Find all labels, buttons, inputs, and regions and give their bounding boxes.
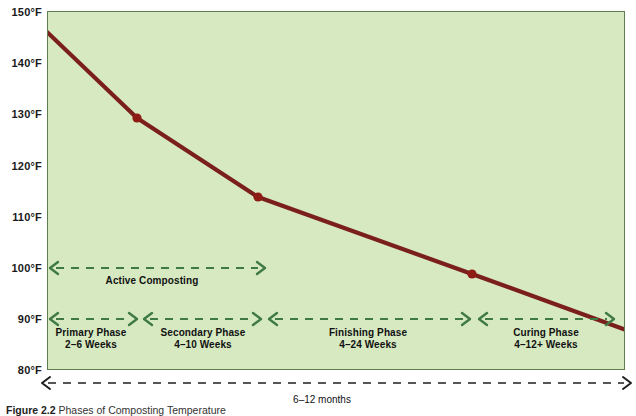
bracket-active-composting (50, 262, 265, 274)
bracket-primary-phase (50, 313, 137, 325)
label-primary-phase: Primary Phase (41, 327, 141, 339)
label-curing-phase-duration: 4–12+ Weeks (486, 339, 606, 351)
label-secondary-phase-duration: 4–10 Weeks (150, 339, 256, 351)
bracket-finishing-phase (269, 313, 470, 325)
figure-caption: Figure 2.2 Phases of Composting Temperat… (6, 404, 226, 416)
data-point-115f (253, 192, 262, 201)
label-active-composting: Active Composting (52, 275, 252, 287)
bracket-curing-phase (479, 313, 614, 325)
figure-caption-text: Phases of Composting Temperature (59, 404, 226, 416)
label-curing-phase: Curing Phase (486, 327, 606, 339)
bracket-secondary-phase (144, 313, 261, 325)
label-total-duration: 6–12 months (262, 394, 382, 405)
label-finishing-phase-duration: 4–24 Weeks (308, 339, 428, 351)
data-point-130f (132, 113, 141, 122)
bracket-total-duration (42, 377, 631, 389)
label-primary-phase-duration: 2–6 Weeks (41, 339, 141, 351)
figure-caption-number: Figure 2.2 (6, 404, 56, 416)
data-point-100f (467, 269, 476, 278)
label-finishing-phase: Finishing Phase (308, 327, 428, 339)
label-secondary-phase: Secondary Phase (150, 327, 256, 339)
